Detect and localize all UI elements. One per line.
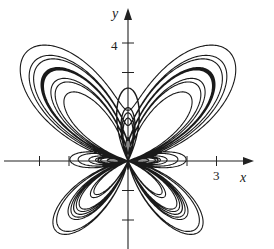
x-axis-label: x	[239, 170, 247, 185]
butterfly-curve-plot: x y 3 4	[0, 0, 274, 249]
y-tick-label-4: 4	[111, 38, 118, 53]
x-axis-arrow-icon	[243, 157, 254, 165]
x-tick-label-3: 3	[213, 168, 220, 183]
y-axis-arrow-icon	[124, 8, 132, 20]
y-axis-label: y	[110, 6, 119, 21]
axes: x y 3 4	[4, 6, 254, 249]
